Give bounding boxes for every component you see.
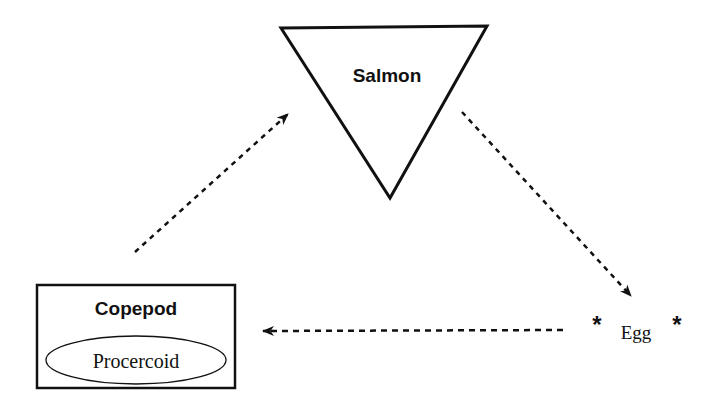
egg-asterisk-left: *	[592, 311, 602, 338]
arrow-egg-to-copepod	[263, 330, 563, 331]
arrow-salmon-to-egg	[462, 112, 631, 296]
egg-asterisk-right: *	[672, 311, 682, 338]
arrow-copepod-to-salmon	[135, 114, 288, 252]
egg-node: * Egg *	[592, 311, 682, 343]
salmon-label: Salmon	[353, 65, 422, 86]
copepod-node: Copepod Procercoid	[37, 285, 235, 388]
life-cycle-diagram: Salmon Copepod Procercoid * Egg *	[0, 0, 716, 405]
egg-label: Egg	[621, 322, 652, 343]
procercoid-label: Procercoid	[93, 350, 180, 372]
copepod-label: Copepod	[95, 298, 177, 319]
salmon-triangle	[281, 26, 487, 198]
salmon-node: Salmon	[281, 26, 487, 198]
